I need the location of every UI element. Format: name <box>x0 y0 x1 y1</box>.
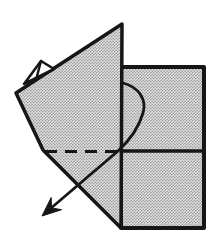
folded-flap <box>16 24 122 228</box>
diagram-canvas <box>0 0 214 236</box>
square-sheet <box>121 67 204 228</box>
origami-diagram <box>0 0 214 236</box>
